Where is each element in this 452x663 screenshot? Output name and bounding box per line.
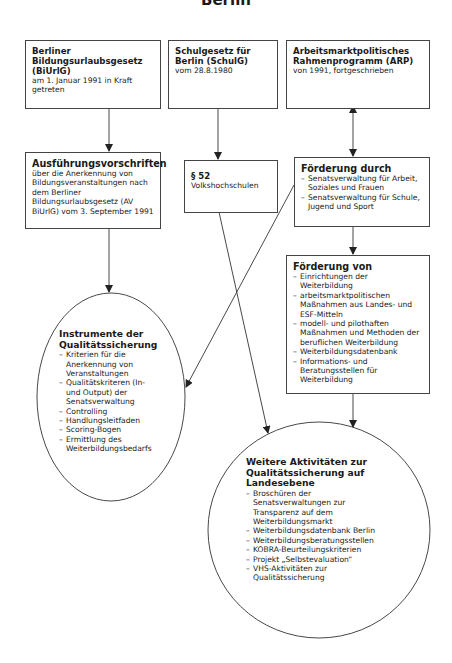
list-item: Projekt „Selbstevaluation“ <box>246 555 386 564</box>
box-av: Ausführungsvorschriften über die Anerken… <box>25 152 161 229</box>
arrow-p52-to-weitere <box>219 212 268 433</box>
list-item: Senatsverwaltung für Schule, Jugend und … <box>301 193 423 212</box>
list-item: VHS-Aktivitäten zur Qualitätssicherung <box>246 564 386 583</box>
list-item: Weiterbildungsdatenbank Berlin <box>246 526 386 535</box>
list-item: Ermittlung des Weiterbildungsbedarfs <box>59 435 159 454</box>
list-item: Controlling <box>59 407 159 416</box>
foerderung-von-list: Einrichtungen der Weiterbildung arbeitsm… <box>293 272 423 385</box>
list-item: Senatsverwaltung für Arbeit, Soziales un… <box>301 174 423 193</box>
foerderung-durch-heading: Förderung durch <box>301 163 423 174</box>
biurlg-text: am 1. Januar 1991 in Kraft getreten <box>32 76 154 95</box>
arp-text: von 1991, fortgeschrieben <box>293 66 423 75</box>
schulg-heading: Schulgesetz für Berlin (SchulG) <box>175 46 271 66</box>
list-item: KOBRA-Beurteilungskriterien <box>246 545 386 554</box>
box-p52: § 52 Volkshochschulen <box>184 160 278 213</box>
weitere-list: Broschüren der Senatsverwaltungen zur Tr… <box>246 489 386 583</box>
list-item: Weiterbildungsdatenbank <box>293 347 423 356</box>
box-arp: Arbeitsmarktpolitisches Rahmenprogramm (… <box>286 40 430 109</box>
box-biurlg: Berliner Bildungsurlaubsgesetz (BiUrlG) … <box>25 40 161 109</box>
list-item: arbeitsmarktpolitischen Maßnahmen aus La… <box>293 291 423 319</box>
box-schulg: Schulgesetz für Berlin (SchulG) vom 28.8… <box>168 40 278 109</box>
foerderung-von-heading: Förderung von <box>293 261 423 272</box>
instrumente-heading: Instrumente der Qualitätssicherung <box>59 329 159 350</box>
list-item: Scoring-Bogen <box>59 425 159 434</box>
foerderung-durch-list: Senatsverwaltung für Arbeit, Soziales un… <box>301 174 423 212</box>
av-heading: Ausführungsvorschriften <box>32 158 154 169</box>
box-foerderung-von: Förderung von Einrichtungen der Weiterbi… <box>286 255 430 394</box>
biurlg-heading: Berliner Bildungsurlaubsgesetz (BiUrlG) <box>32 46 154 76</box>
list-item: Broschüren der Senatsverwaltungen zur Tr… <box>246 489 386 527</box>
list-item: Qualitätskriteren (In- und Output) der S… <box>59 378 159 406</box>
instrumente-content: Instrumente der Qualitätssicherung Krite… <box>59 329 159 454</box>
weitere-heading: Weitere Aktivitäten zur Qualitätssicheru… <box>246 457 386 489</box>
arrow-foerderung-durch-to-instrumente <box>186 185 294 387</box>
box-foerderung-durch: Förderung durch Senatsverwaltung für Arb… <box>294 157 430 227</box>
list-item: Handlungsleitfaden <box>59 416 159 425</box>
list-item: Kriterien für die Anerkennung von Verans… <box>59 350 159 378</box>
p52-text: Volkshochschulen <box>191 181 271 190</box>
p52-heading: § 52 <box>191 171 271 181</box>
list-item: Einrichtungen der Weiterbildung <box>293 272 423 291</box>
list-item: Weiterbildungsberatungsstellen <box>246 536 386 545</box>
instrumente-list: Kriterien für die Anerkennung von Verans… <box>59 350 159 453</box>
av-text: über die Anerkennung von Bildungsveranst… <box>32 169 154 216</box>
arp-heading: Arbeitsmarktpolitisches Rahmenprogramm (… <box>293 46 423 66</box>
schulg-text: vom 28.8.1980 <box>175 66 271 75</box>
weitere-content: Weitere Aktivitäten zur Qualitätssicheru… <box>246 457 386 583</box>
list-item: modell- und pilothaften Maßnahmen und Me… <box>293 319 423 347</box>
list-item: Informations- und Beratungsstellen für W… <box>293 357 423 385</box>
